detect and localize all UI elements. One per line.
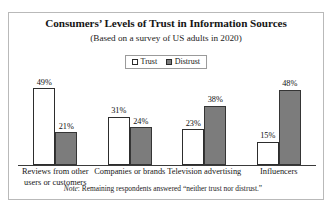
bar-value-label: 21%	[59, 122, 74, 131]
bar-distrust[interactable]: 38%	[204, 106, 226, 165]
bar-trust[interactable]: 31%	[108, 117, 130, 165]
bar-group: 23%38%	[182, 79, 226, 165]
chart-figure: Consumers’ Levels of Trust in Informatio…	[8, 12, 324, 200]
legend-item-distrust: Distrust	[166, 57, 200, 66]
bar-value-label: 48%	[282, 79, 297, 88]
bar-pair: 49%21%	[33, 79, 77, 165]
white-square-icon	[132, 59, 138, 65]
x-axis-line	[18, 165, 316, 166]
chart-plot-area: 49%21%31%24%23%38%15%48%	[18, 79, 316, 165]
bar-trust[interactable]: 23%	[182, 129, 204, 165]
bar-pair: 23%38%	[182, 79, 226, 165]
bar-distrust[interactable]: 48%	[279, 90, 301, 165]
gray-square-icon	[166, 59, 172, 65]
legend-label-distrust: Distrust	[175, 57, 200, 66]
bar-group: 15%48%	[257, 79, 301, 165]
bar-distrust[interactable]: 24%	[130, 127, 152, 165]
x-axis-category-label: Television advertising	[167, 167, 242, 178]
bar-pair: 31%24%	[108, 79, 152, 165]
x-axis-category-label: Influencers	[242, 167, 317, 178]
bar-value-label: 38%	[208, 95, 223, 104]
chart-legend: Trust Distrust	[125, 55, 207, 69]
bar-value-label: 15%	[260, 131, 275, 140]
bar-value-label: 23%	[186, 119, 201, 128]
bar-group: 31%24%	[108, 79, 152, 165]
chart-title: Consumers’ Levels of Trust in Informatio…	[9, 17, 323, 29]
x-axis-category-label: Reviews from other users or customers	[18, 167, 93, 188]
bar-pair: 15%48%	[257, 79, 301, 165]
bar-trust[interactable]: 49%	[33, 88, 55, 165]
bar-value-label: 31%	[111, 106, 126, 115]
bar-distrust[interactable]: 21%	[55, 132, 77, 165]
legend-item-trust: Trust	[132, 57, 157, 66]
bar-value-label: 49%	[37, 78, 52, 87]
legend-label-trust: Trust	[141, 57, 158, 66]
bar-trust[interactable]: 15%	[257, 142, 279, 165]
bar-group: 49%21%	[33, 79, 77, 165]
note-text: : Remaining respondents answered “neithe…	[78, 184, 262, 193]
bar-value-label: 24%	[133, 117, 148, 126]
x-axis-category-label: Companies or brands	[93, 167, 168, 178]
chart-subtitle: (Based on a survey of US adults in 2020)	[9, 33, 323, 43]
